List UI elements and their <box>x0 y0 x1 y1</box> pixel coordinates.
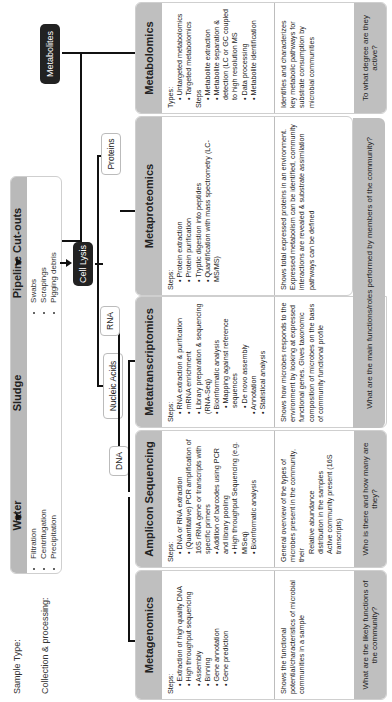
list-item: (Quantitative) PCR amplification of 16S … <box>184 436 212 554</box>
list-item: Precipitation <box>49 443 59 559</box>
list-item: Swabs <box>29 177 39 303</box>
list-item: Metabolite identification <box>249 8 258 100</box>
proteins-node: Proteins <box>101 133 121 175</box>
water-processing-list: Filtration Centrifugation Precipitation <box>29 443 59 573</box>
list-item: Tryptic digestion into peptides <box>194 122 203 282</box>
list-item: Statistical analysis <box>258 302 267 414</box>
list-item: Data processing <box>240 8 249 100</box>
list-item: mRNA enrichment <box>184 302 193 414</box>
list-item: Protein purification <box>184 122 193 282</box>
list-item: Relative abundance <box>307 436 316 554</box>
arrow-down-icon <box>66 259 72 267</box>
list-item: Addition of barcodes using PCR and libra… <box>212 436 230 554</box>
card-question-shared: What are the main functions/roles perfor… <box>353 118 385 428</box>
nucleic-acids-node: Nucleic Acids <box>103 353 123 419</box>
card-title: Metaproteomics <box>136 117 162 295</box>
list-item: Metabolite separation & detection (LC or… <box>212 8 240 100</box>
list-item: Active community present (16S transcript… <box>325 436 343 554</box>
list-item: Targeted metabolomics <box>184 8 193 100</box>
card-steps: Steps: Extraction of high quality DNA Hi… <box>162 571 275 699</box>
list-item: Binning <box>203 576 212 686</box>
list-item: Assembly <box>194 576 203 686</box>
cell-lysis-node: Cell Lysis <box>73 242 93 286</box>
list-item: Filtration <box>29 443 39 559</box>
pipeline-processing-list: Swabs Scrapings Pigging debris <box>29 177 59 317</box>
card-title: Metabolomics <box>136 3 162 113</box>
card-question: To what degree are they active? <box>354 3 386 113</box>
sample-pipeline: Pipeline Cut-outs <box>11 178 27 328</box>
list-item: Gene prediction <box>221 576 230 686</box>
card-description: Shows the functional potential/character… <box>275 571 354 699</box>
list-item: DNA or RNA extraction <box>175 436 184 554</box>
list-item: De novo assembly <box>240 302 249 414</box>
dna-node: DNA <box>109 446 129 476</box>
list-item: High throughput sequencing <box>184 576 193 686</box>
arrow-down-icon <box>16 513 22 521</box>
list-item: Gene annotation <box>212 576 221 686</box>
list-item: Quantification with mass spectrometry (L… <box>203 122 221 282</box>
card-description: Identifies and characterizes key metabol… <box>275 3 354 113</box>
card-metagenomics: Metagenomics Steps: Extraction of high q… <box>135 570 387 700</box>
card-amplicon-sequencing: Amplicon Sequencing Steps: DNA or RNA ex… <box>135 430 387 568</box>
card-metaproteomics: Metaproteomics Steps: Protein extraction… <box>135 116 353 296</box>
list-item: Untargeted metabolomics <box>175 8 184 100</box>
list-item: Metabolite extraction <box>203 8 212 100</box>
sample-type-label: Sample Type: <box>12 639 22 694</box>
card-steps: Steps: RNA extraction & purification mRN… <box>162 297 275 427</box>
list-item: Centrifugation <box>39 443 49 559</box>
card-description: General overview of the types of microbe… <box>275 431 354 567</box>
card-metabolomics: Metabolomics Types: Untargeted metabolom… <box>135 2 387 114</box>
card-metatranscriptomics: Metatranscriptomics Steps: RNA extractio… <box>135 296 387 428</box>
card-title: Amplicon Sequencing <box>136 431 162 567</box>
card-question: Who is there and how many are they? <box>354 431 386 567</box>
arrow-down-icon <box>16 258 22 266</box>
list-item: Library preparation & sequencing (RNA-Se… <box>194 302 212 414</box>
card-steps: Types: Untargeted metabolomics Targeted … <box>162 3 275 113</box>
list-item: Bioinformatic analysis <box>212 302 221 414</box>
list-item: High throughput Sequencing (e.g. MiSeq) <box>230 436 248 554</box>
omics-workflow-diagram: Sample Type: Collection & processing: Wa… <box>0 0 392 702</box>
list-item: distribution in the samples <box>316 436 325 554</box>
card-title: Metatranscriptomics <box>136 297 162 427</box>
list-item: Extraction of high quality DNA <box>175 576 184 686</box>
card-steps: Steps: DNA or RNA extraction (Quantitati… <box>162 431 275 567</box>
metabolites-node: Metabolites <box>40 24 60 84</box>
list-item: Pigging debris <box>49 177 59 303</box>
list-item: Mapping against reference sequences <box>221 302 239 414</box>
sample-sludge: Sludge <box>11 328 27 458</box>
list-item: Bioinformatic analysis <box>249 436 258 554</box>
list-item: Protein extraction <box>175 122 184 282</box>
list-item: Annotation <box>249 302 258 414</box>
collection-processing-label: Collection & processing: <box>40 597 50 694</box>
card-steps: Steps: Protein extraction Protein purifi… <box>162 117 275 295</box>
card-description: Shows total expressed proteins in an env… <box>275 117 352 295</box>
list-item: RNA extraction & purification <box>175 302 184 414</box>
card-question: What are the likely functions of the com… <box>354 571 386 699</box>
list-item: Scrapings <box>39 177 49 303</box>
card-title: Metagenomics <box>136 571 162 699</box>
rna-node: RNA <box>100 306 120 336</box>
